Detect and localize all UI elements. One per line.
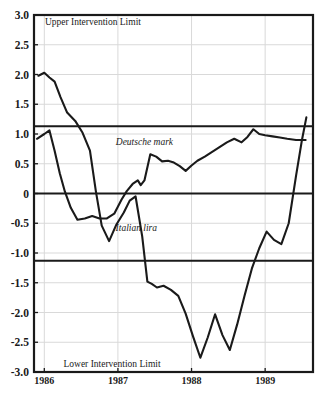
chart-figure: 3.02.52.01.51.00.50-0.5-1.0-1.5-2.0-2.5-… [0, 0, 326, 396]
exchange-rate-line-chart: 3.02.52.01.51.00.50-0.5-1.0-1.5-2.0-2.5-… [0, 0, 326, 396]
y-tick-label-0.5: 0.5 [15, 158, 30, 170]
y-tick-label-0: 0 [23, 188, 29, 200]
y-tick-label--1.0: -1.0 [11, 247, 29, 259]
deutsche-mark-label: Deutsche mark [115, 137, 174, 147]
y-tick-label-2.0: 2.0 [15, 69, 30, 81]
x-tick-label-1986: 1986 [34, 375, 54, 386]
y-tick-label--0.5: -0.5 [11, 217, 29, 229]
italian-lira-label: Italian lira [115, 223, 158, 233]
x-tick-label-1987: 1987 [108, 375, 128, 386]
y-tick-label--1.5: -1.5 [11, 277, 29, 289]
y-tick-label-2.5: 2.5 [15, 39, 30, 51]
y-tick-label-3.0: 3.0 [15, 9, 30, 21]
y-tick-label--2.5: -2.5 [11, 336, 29, 348]
x-tick-label-1989: 1989 [255, 375, 275, 386]
lower-intervention-limit-label: Lower Intervention Limit [63, 359, 160, 369]
y-tick-label--3.0: -3.0 [11, 366, 29, 378]
upper-intervention-limit-label: Upper Intervention Limit [45, 17, 141, 27]
y-tick-label-1.5: 1.5 [15, 98, 30, 110]
y-tick-label--2.0: -2.0 [11, 307, 29, 319]
x-tick-label-1988: 1988 [182, 375, 202, 386]
y-tick-label-1.0: 1.0 [15, 128, 30, 140]
